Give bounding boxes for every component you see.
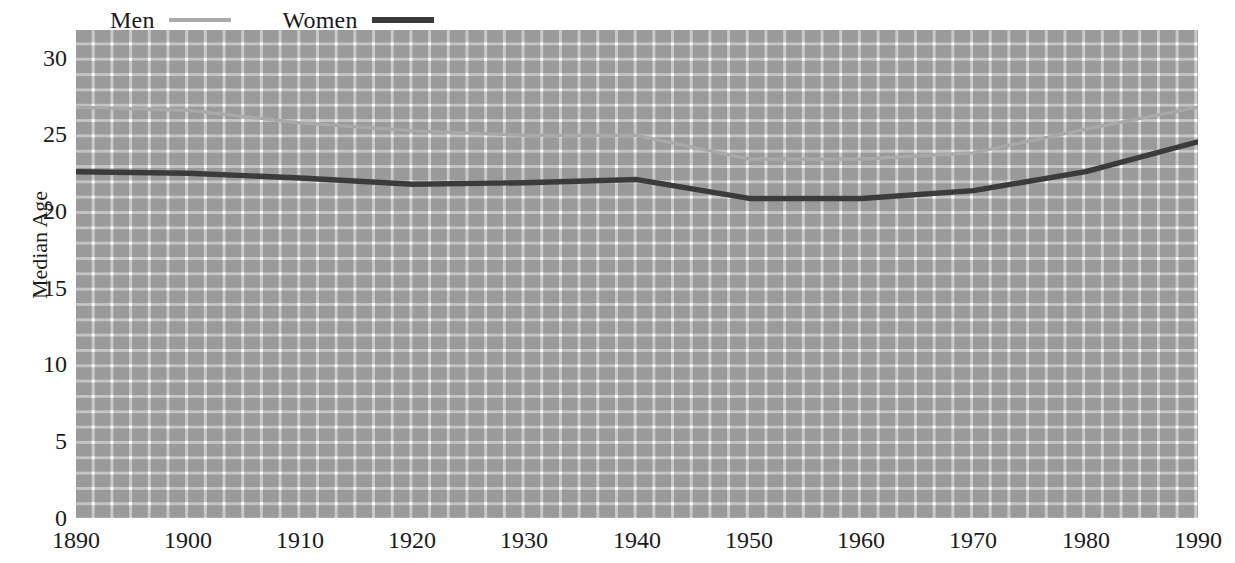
plot-area: [76, 30, 1198, 518]
y-tick-label-25: 25: [7, 122, 67, 146]
y-tick-label-15: 15: [7, 276, 67, 300]
x-tick-label-1990: 1990: [1153, 528, 1235, 552]
x-tick-label-1930: 1930: [479, 528, 569, 552]
x-tick-label-1900: 1900: [143, 528, 233, 552]
men-line-swatch-icon: [169, 18, 231, 22]
x-tick-label-1950: 1950: [704, 528, 794, 552]
legend-label-men: Men: [110, 8, 155, 32]
y-tick-label-10: 10: [7, 352, 67, 376]
y-tick-label-5: 5: [7, 429, 67, 453]
legend-label-women: Women: [283, 8, 358, 32]
y-tick-label-20: 20: [7, 199, 67, 223]
x-tick-label-1940: 1940: [592, 528, 682, 552]
y-tick-label-30: 30: [7, 46, 67, 70]
x-tick-label-1890: 1890: [31, 528, 121, 552]
women-line-swatch-icon: [372, 17, 434, 23]
median-age-line-chart: Men Women Median Age 30 25 20 15 10 5 0 …: [0, 0, 1235, 563]
x-tick-label-1970: 1970: [928, 528, 1018, 552]
y-axis-title: Median Age: [27, 145, 53, 345]
legend-entry-women: Women: [283, 8, 434, 32]
series-canvas: [76, 30, 1198, 518]
x-tick-label-1960: 1960: [816, 528, 906, 552]
x-tick-label-1920: 1920: [367, 528, 457, 552]
legend-entry-men: Men: [110, 8, 231, 32]
men-series-line: [76, 107, 1198, 159]
x-tick-label-1910: 1910: [255, 528, 345, 552]
women-series-line: [76, 142, 1198, 199]
x-tick-label-1980: 1980: [1041, 528, 1131, 552]
